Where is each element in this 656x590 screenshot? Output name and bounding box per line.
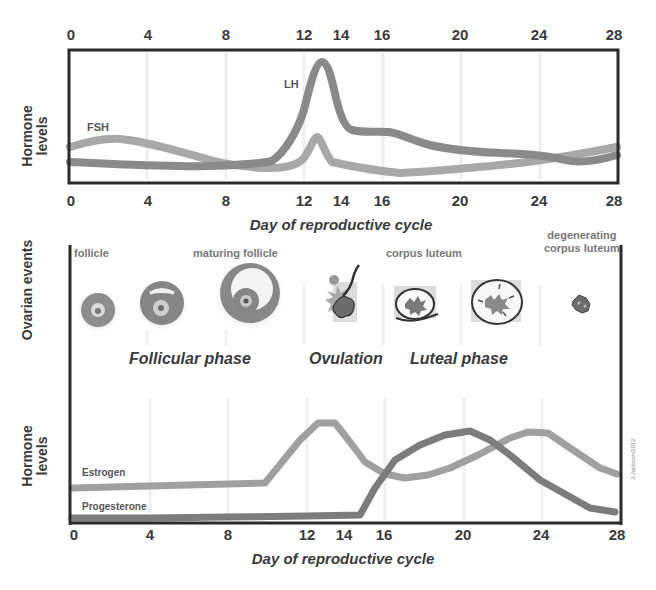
progesterone-label: Progesterone [82, 501, 146, 512]
tick-label: 12 [299, 526, 316, 543]
estrogen-label: Estrogen [82, 467, 125, 478]
credit-text: J.Jackson/2012 [630, 438, 636, 480]
tick-label: 16 [376, 526, 393, 543]
tick-label: 0 [70, 526, 78, 543]
tick-label: 28 [609, 526, 626, 543]
bottom-chart-xlabel: Day of reproductive cycle [252, 550, 435, 567]
tick-label: 24 [533, 526, 550, 543]
tick-label: 20 [455, 526, 472, 543]
tick-label: 4 [146, 526, 154, 543]
progesterone-curve [72, 431, 615, 518]
ylabel-line1: Hormone [20, 416, 35, 496]
bottom-chart-ylabel: Hormone levels [20, 416, 50, 496]
tick-label: 14 [336, 526, 353, 543]
bottom-chart-gridlines [150, 398, 542, 520]
tick-label: 8 [224, 526, 232, 543]
ylabel-line2: levels [35, 416, 50, 496]
